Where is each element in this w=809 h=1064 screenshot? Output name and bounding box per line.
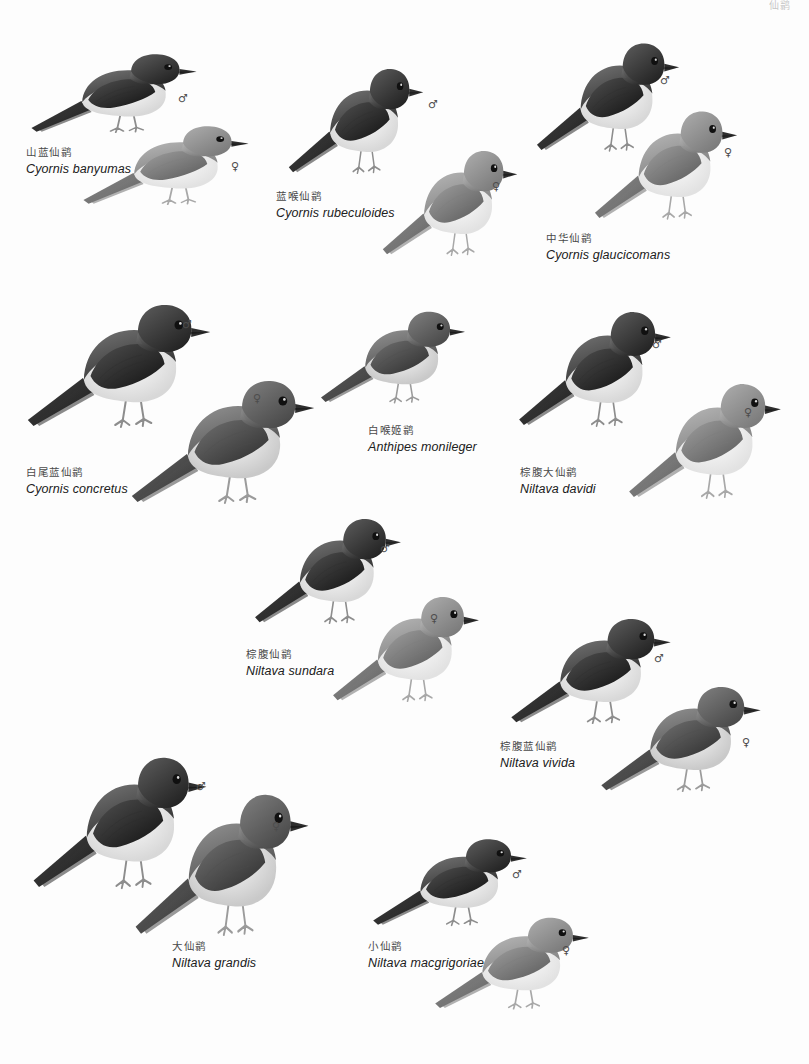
species-name-scientific: Niltava vivida	[500, 755, 575, 772]
sex-symbol-male: ♂	[178, 92, 188, 105]
species-name-scientific: Cyornis glaucicomans	[546, 247, 670, 264]
sex-symbol-female: ♀	[562, 944, 570, 957]
species-label-niltava-davidi: 棕腹大仙鹟Niltava davidi	[520, 466, 596, 497]
sex-symbol-female: ♀	[253, 392, 261, 405]
sex-symbol-female: ♀	[430, 612, 438, 625]
species-label-niltava-macgrigoriae: 小仙鹟Niltava macgrigoriae	[368, 940, 484, 971]
sex-symbol-female: ♀	[724, 146, 732, 159]
species-label-anthipes-monileger: 白喉姬鹟Anthipes monileger	[368, 424, 477, 455]
species-label-niltava-grandis: 大仙鹟Niltava grandis	[172, 940, 256, 971]
sex-symbol-female: ♀	[744, 406, 752, 419]
sex-symbol-female: ♀	[231, 160, 239, 173]
sex-symbol-male: ♂	[428, 98, 438, 111]
species-name-scientific: Niltava grandis	[172, 955, 256, 972]
species-name-scientific: Cyornis rubeculoides	[276, 205, 395, 222]
species-label-cyornis-concretus: 白尾蓝仙鹟Cyornis concretus	[26, 466, 128, 497]
species-name-chinese: 白喉姬鹟	[368, 424, 477, 438]
species-name-scientific: Cyornis concretus	[26, 481, 128, 498]
species-name-scientific: Niltava sundara	[246, 663, 334, 680]
species-name-chinese: 白尾蓝仙鹟	[26, 466, 128, 480]
species-name-scientific: Cyornis banyumas	[26, 161, 131, 178]
sex-symbol-male: ♂	[652, 338, 662, 351]
species-label-niltava-vivida: 棕腹蓝仙鹟Niltava vivida	[500, 740, 575, 771]
species-name-scientific: Niltava davidi	[520, 481, 596, 498]
sex-symbol-male: ♂	[182, 318, 192, 331]
bird-illustration-niltava-sundara-female	[330, 586, 482, 714]
species-name-chinese: 小仙鹟	[368, 940, 484, 954]
sex-symbol-male: ♂	[654, 652, 664, 665]
bird-illustration-cyornis-glaucicomans-female	[592, 100, 740, 232]
bird-illustration-niltava-vivida-female	[598, 676, 764, 804]
field-guide-plate-page: 仙鹟	[0, 0, 809, 1064]
species-name-chinese: 中华仙鹟	[546, 232, 670, 246]
species-name-chinese: 棕腹大仙鹟	[520, 466, 596, 480]
species-name-chinese: 蓝喉仙鹟	[276, 190, 395, 204]
sex-symbol-male: ♂	[196, 780, 206, 793]
species-name-chinese: 山蓝仙鹟	[26, 146, 131, 160]
sex-symbol-male: ♂	[660, 74, 670, 87]
bird-illustration-cyornis-concretus-female	[128, 368, 318, 518]
species-name-scientific: Anthipes monileger	[368, 439, 477, 456]
species-name-chinese: 棕腹仙鹟	[246, 648, 334, 662]
species-label-cyornis-banyumas: 山蓝仙鹟Cyornis banyumas	[26, 146, 131, 177]
sex-symbol-female: ♀	[492, 180, 500, 193]
species-label-niltava-sundara: 棕腹仙鹟Niltava sundara	[246, 648, 334, 679]
page-header-text: 仙鹟	[769, 0, 791, 12]
species-name-chinese: 大仙鹟	[172, 940, 256, 954]
sex-symbol-male: ♂	[380, 542, 390, 555]
species-name-scientific: Niltava macgrigoriae	[368, 955, 484, 972]
bird-illustration-cyornis-rubeculoides-female	[380, 140, 520, 268]
species-label-cyornis-rubeculoides: 蓝喉仙鹟Cyornis rubeculoides	[276, 190, 395, 221]
sex-symbol-male: ♂	[512, 868, 522, 881]
sex-symbol-female: ♀	[742, 736, 750, 749]
bird-illustration-niltava-davidi-female	[626, 372, 784, 512]
species-name-chinese: 棕腹蓝仙鹟	[500, 740, 575, 754]
species-label-cyornis-glaucicomans: 中华仙鹟Cyornis glaucicomans	[546, 232, 670, 263]
bird-illustration-niltava-grandis-female	[132, 780, 312, 952]
sex-symbol-female: ♀	[272, 820, 280, 833]
bird-illustration-anthipes-monileger	[318, 302, 468, 414]
